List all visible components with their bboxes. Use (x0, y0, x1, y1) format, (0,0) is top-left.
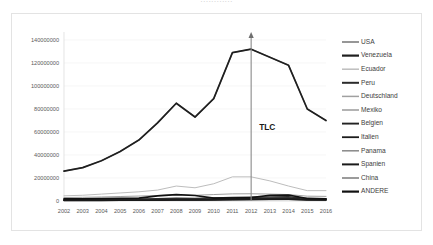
y-axis-tick-label: 60000000 (34, 129, 59, 135)
series-line-usa (64, 49, 326, 171)
x-axis-tick-label: 2003 (76, 208, 88, 214)
y-axis-tick-label: 40000000 (34, 152, 59, 158)
legend-label-venezuela: Venezuela (361, 51, 392, 58)
x-axis-tick-label: 2005 (114, 208, 126, 214)
legend-label-belgien: Belgien (361, 119, 383, 127)
top-edge-text: ............ (0, 0, 433, 4)
x-axis-tick-label: 2006 (133, 208, 145, 214)
tlc-annotation-label: TLC (259, 122, 275, 132)
legend-label-panama: Panama (361, 147, 386, 154)
chart-container: 0200000004000000060000000800000001000000… (11, 13, 422, 231)
x-axis-tick-label: 2007 (151, 208, 163, 214)
x-axis-tick-label: 2010 (207, 208, 219, 214)
x-axis-tick-label: 2009 (189, 208, 201, 214)
legend-label-deutschland: Deutschland (361, 92, 398, 99)
x-axis-tick-label: 2012 (245, 208, 257, 214)
up-arrow-icon (249, 32, 254, 38)
legend-label-peru: Peru (361, 79, 375, 86)
legend-label-china: China (361, 174, 379, 181)
y-axis-tick-label: 140000000 (31, 37, 59, 43)
top-edge-clipped-text: ............ (0, 0, 433, 11)
y-axis-tick-label: 20000000 (34, 175, 59, 181)
x-axis-tick-label: 2013 (264, 208, 276, 214)
x-axis-tick-label: 2004 (95, 208, 107, 214)
legend-label-ecuador: Ecuador (361, 65, 386, 72)
y-axis-tick-label: 80000000 (34, 106, 59, 112)
x-axis-tick-label: 2015 (301, 208, 313, 214)
y-axis-tick-label: 120000000 (31, 60, 59, 66)
x-axis-tick-label: 2014 (282, 208, 294, 214)
y-axis-tick-label: 0 (56, 198, 59, 204)
y-axis-tick-label: 100000000 (31, 83, 59, 89)
legend-label-andere: ANDERE (361, 187, 389, 194)
legend-label-spanien: Spanien (361, 160, 386, 168)
legend-label-usa: USA (361, 38, 375, 45)
series-line-venezuela (64, 49, 326, 171)
legend-label-mexiko: Mexiko (361, 106, 382, 113)
x-axis-tick-label: 2016 (320, 208, 332, 214)
legend-label-italien: Italien (361, 133, 379, 140)
x-axis-tick-label: 2011 (226, 208, 238, 214)
series-line-ecuador (64, 177, 326, 196)
line-chart: 0200000004000000060000000800000001000000… (12, 14, 421, 230)
x-axis-tick-label: 2008 (170, 208, 182, 214)
chart-screenshot: ............ 020000000400000006000000080… (0, 0, 433, 245)
x-axis-tick-label: 2002 (58, 208, 70, 214)
